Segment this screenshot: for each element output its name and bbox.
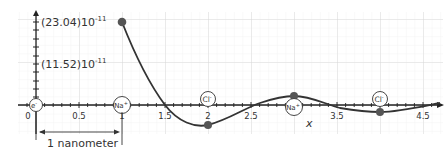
svg-text:2: 2 bbox=[205, 111, 210, 121]
x-axis-label: x bbox=[305, 117, 313, 130]
ion-chloride: Cl- bbox=[373, 92, 388, 107]
svg-text:1.5: 1.5 bbox=[158, 111, 172, 121]
dim-label: 1 nanometer bbox=[47, 137, 118, 149]
ion-electron: e- bbox=[30, 99, 43, 112]
svg-text:0: 0 bbox=[25, 111, 30, 121]
coulomb-diagram: (23.04)10-11 (11.52)10-11 0 0.5 1 1.5 2 bbox=[0, 0, 448, 149]
data-point bbox=[118, 18, 127, 27]
data-point bbox=[204, 121, 212, 129]
svg-text:4.5: 4.5 bbox=[416, 111, 430, 121]
ion-sodium: Na+ bbox=[286, 99, 303, 116]
data-point bbox=[376, 108, 384, 116]
ion-sodium: Na+ bbox=[114, 97, 131, 114]
svg-text:2.5: 2.5 bbox=[244, 111, 258, 121]
svg-text:3.5: 3.5 bbox=[330, 111, 344, 121]
svg-text:0.5: 0.5 bbox=[72, 111, 86, 121]
ion-chloride: Cl- bbox=[201, 92, 216, 107]
